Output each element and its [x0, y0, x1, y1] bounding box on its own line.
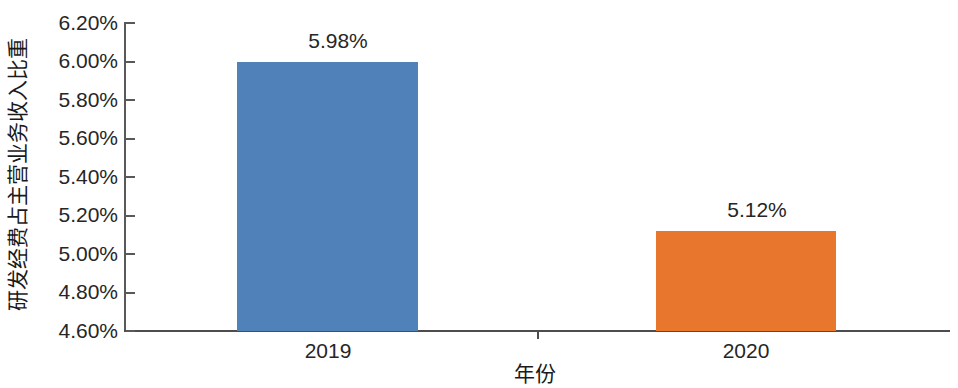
data-label-2019: 5.98% [268, 30, 408, 51]
bar-2020[interactable] [656, 231, 836, 331]
y-tick-label: 6.20% [8, 12, 118, 33]
y-tick-mark [126, 330, 135, 332]
y-tick-mark [126, 215, 135, 217]
y-tick-mark [126, 176, 135, 178]
y-tick-label: 5.80% [8, 89, 118, 110]
y-tick-mark [126, 99, 135, 101]
x-axis-title: 年份 [465, 363, 605, 385]
y-tick-mark [126, 253, 135, 255]
y-tick-label: 5.20% [8, 204, 118, 225]
x-category-label-2019: 2019 [258, 340, 398, 361]
y-tick-mark [126, 292, 135, 294]
y-tick-mark [126, 22, 135, 24]
x-category-label-2020: 2020 [676, 340, 816, 361]
bar-2019[interactable] [237, 62, 418, 331]
y-tick-label: 5.60% [8, 127, 118, 148]
y-tick-label: 6.00% [8, 50, 118, 71]
y-tick-label: 5.40% [8, 166, 118, 187]
x-tick-mark [537, 332, 539, 339]
bar-chart: 研发经费占主营业务收入比重 6.20% 6.00% 5.80% 5.60% 5.… [0, 0, 958, 388]
y-tick-label: 4.80% [8, 281, 118, 302]
data-label-2020: 5.12% [687, 199, 827, 220]
y-tick-mark [126, 61, 135, 63]
y-tick-label: 4.60% [8, 320, 118, 341]
y-tick-mark [126, 138, 135, 140]
y-tick-label: 5.00% [8, 243, 118, 264]
